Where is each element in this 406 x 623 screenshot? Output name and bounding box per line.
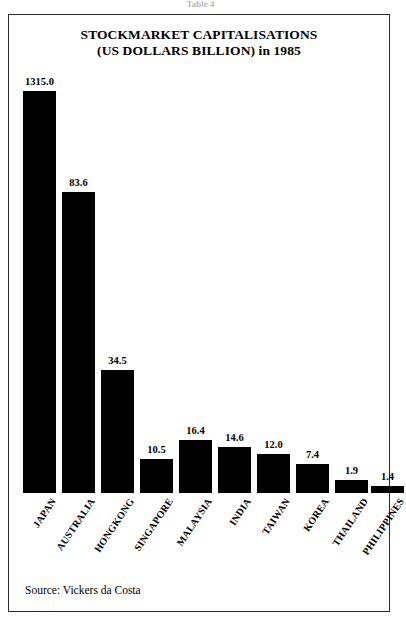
bar-value-label: 1.4: [381, 471, 394, 482]
bar-value-label: 34.5: [108, 355, 126, 366]
category-label-japan: JAPAN: [31, 496, 59, 530]
category-label-hongkong: HONGKONG: [92, 496, 136, 554]
bar-rect: [371, 486, 404, 493]
bar-rect: [101, 370, 134, 493]
bar-rect: [179, 440, 212, 493]
category-label-taiwan: TAIWAN: [260, 496, 292, 537]
bar-value-label: 83.6: [69, 177, 87, 188]
bar-rect: [62, 192, 95, 493]
bar-singapore: 10.5: [140, 75, 173, 493]
bar-rect: [296, 464, 329, 493]
category-label-india: INDIA: [227, 496, 253, 527]
category-label-malaysia: MALAYSIA: [174, 496, 214, 548]
category-label-australia: AUSTRALIA: [54, 496, 97, 552]
chart-title-line-1: STOCKMARKET CAPITALISATIONS: [9, 27, 389, 43]
bar-value-label: 14.6: [225, 432, 243, 443]
category-label-singapore: SINGAPORE: [132, 496, 175, 553]
bar-taiwan: 12.0: [257, 75, 290, 493]
chart-title-line-2: (US DOLLARS BILLION) in 1985: [9, 43, 389, 59]
chart-title: STOCKMARKET CAPITALISATIONS (US DOLLARS …: [9, 27, 389, 58]
bar-value-label: 10.5: [147, 444, 165, 455]
bar-value-label: 1315.0: [25, 76, 54, 87]
figure-caption-cutoff: Table 4: [0, 0, 401, 9]
bar-rect: [140, 459, 173, 493]
bar-australia: 83.6: [62, 75, 95, 493]
bar-rect: [218, 447, 251, 493]
bar-hongkong: 34.5: [101, 75, 134, 493]
bar-rect: [23, 91, 56, 493]
bar-korea: 7.4: [296, 75, 329, 493]
bar-value-label: 1.9: [345, 465, 358, 476]
chart-frame: STOCKMARKET CAPITALISATIONS (US DOLLARS …: [8, 14, 390, 612]
bar-chart-plot-area: 1315.083.634.510.516.414.612.07.41.91.4: [23, 75, 377, 493]
bar-philippines: 1.4: [371, 75, 404, 493]
category-label-korea: KOREA: [301, 496, 331, 533]
bar-thailand: 1.9: [335, 75, 368, 493]
bar-japan: 1315.0: [23, 75, 56, 493]
bar-rect: [335, 480, 368, 493]
bar-malaysia: 16.4: [179, 75, 212, 493]
source-note: Source: Vickers da Costa: [25, 584, 141, 597]
category-label-thailand: THAILAND: [330, 496, 370, 548]
bar-value-label: 12.0: [264, 439, 282, 450]
bar-value-label: 7.4: [306, 449, 319, 460]
bar-rect: [257, 454, 290, 493]
category-axis: JAPANAUSTRALIAHONGKONGSINGAPOREMALAYSIAI…: [23, 496, 377, 596]
bar-value-label: 16.4: [186, 425, 204, 436]
bar-india: 14.6: [218, 75, 251, 493]
